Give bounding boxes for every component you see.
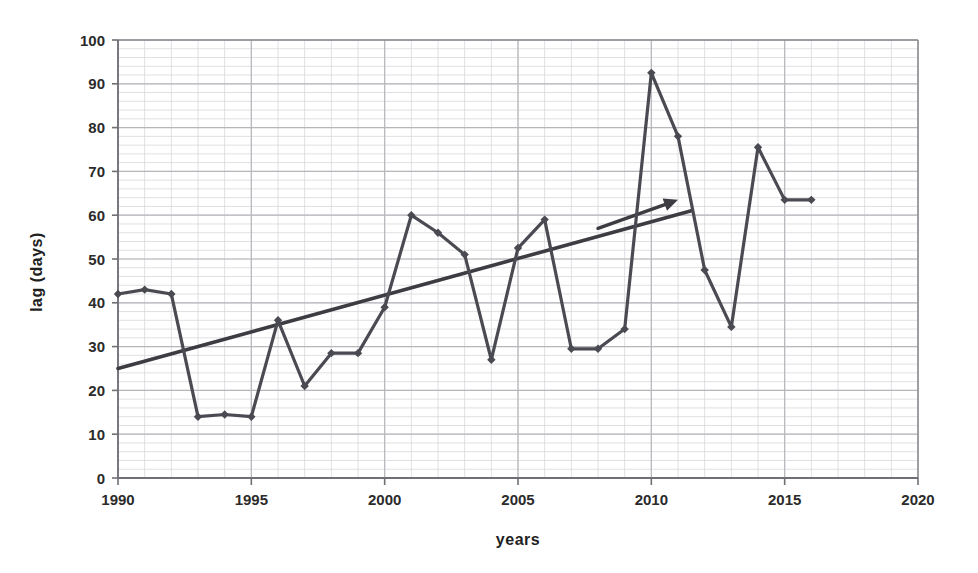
y-tick-label: 50 [88,251,105,268]
x-tick-label: 2010 [635,491,668,508]
y-axis-title: lag (days) [28,232,45,312]
x-tick-label: 1990 [101,491,134,508]
x-tick-label: 2020 [901,491,934,508]
y-tick-label: 90 [88,75,105,92]
chart-figure: 0102030405060708090100 19901995200020052… [0,0,978,573]
y-tick-label: 60 [88,207,105,224]
x-tick-label: 1995 [235,491,268,508]
chart-svg: 0102030405060708090100 19901995200020052… [0,0,978,573]
y-tick-label: 20 [88,382,105,399]
x-axis-title: years [496,531,540,548]
x-tick-label: 2005 [501,491,534,508]
y-tick-label: 80 [88,119,105,136]
x-tick-label: 2015 [768,491,801,508]
y-tick-label: 0 [97,470,105,487]
x-tick-label: 2000 [368,491,401,508]
y-tick-label: 10 [88,426,105,443]
y-tick-label: 100 [80,32,105,49]
y-tick-label: 30 [88,338,105,355]
y-tick-label: 70 [88,163,105,180]
y-tick-label: 40 [88,294,105,311]
